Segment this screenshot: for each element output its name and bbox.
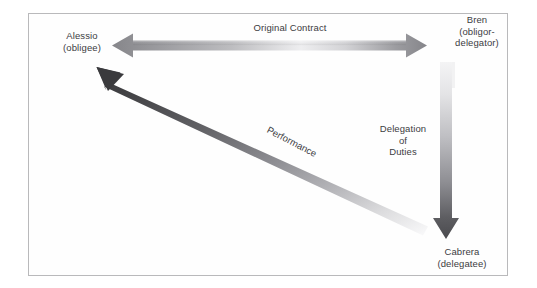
node-label-cabrera: Cabrera (delegatee) — [414, 246, 510, 269]
node-label-bren-name: Bren — [434, 14, 520, 26]
arrow-label-delegation-line-3: Duties — [372, 146, 434, 158]
arrow-label-original-contract: Original Contract — [220, 22, 360, 34]
node-label-bren: Bren (obligor- delegator) — [434, 14, 520, 49]
node-label-bren-role-line-1: (obligor- — [434, 26, 520, 38]
node-label-cabrera-name: Cabrera — [414, 246, 510, 258]
arrow-label-delegation-of-duties: Delegation of Duties — [372, 123, 434, 158]
node-label-alessio-name: Alessio — [46, 30, 118, 42]
arrow-delegation-of-duties — [433, 62, 459, 239]
arrow-label-delegation-line-1: Delegation — [372, 123, 434, 135]
node-label-alessio-role: (obligee) — [46, 42, 118, 54]
arrow-label-delegation-line-2: of — [372, 135, 434, 147]
arrow-original-contract — [112, 34, 427, 58]
node-label-alessio: Alessio (obligee) — [46, 30, 118, 53]
diagram-canvas: Alessio (obligee) Bren (obligor- delegat… — [0, 0, 537, 288]
node-label-cabrera-role: (delegatee) — [414, 258, 510, 270]
node-label-bren-role-line-2: delegator) — [434, 37, 520, 49]
